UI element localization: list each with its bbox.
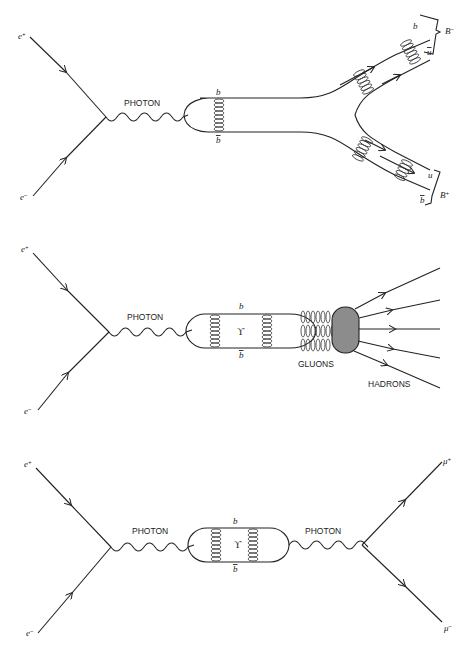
b-out-label: b xyxy=(413,21,418,31)
upsilon-label: ϒ xyxy=(234,539,242,550)
bbar-quark-label: b xyxy=(239,350,244,360)
b-minus-label: B− xyxy=(445,26,455,36)
ubar-out-label: u xyxy=(427,47,432,57)
photon-label: PHOTON xyxy=(127,312,163,322)
photon-label: PHOTON xyxy=(124,98,160,108)
diagram-upsilon-to-hadrons: e+ e− PHOTON b b ϒ GLUONS HADRONS xyxy=(21,244,440,416)
upsilon-bound-state xyxy=(186,314,316,348)
mu-minus-label: μ− xyxy=(443,623,453,633)
bbar-quark-label: b xyxy=(233,564,238,574)
e-minus-label: e− xyxy=(20,192,28,202)
upsilon-label: ϒ xyxy=(237,326,245,337)
b-quark-label: b xyxy=(239,301,244,311)
photon-wavy-line xyxy=(106,113,188,121)
b-quark-label: b xyxy=(216,87,221,97)
gluons-label: GLUONS xyxy=(298,359,334,369)
photon-label-right: PHOTON xyxy=(305,526,341,536)
hadron-lines xyxy=(354,268,440,388)
feynman-diagrams-figure: e+ e− PHOTON xyxy=(0,0,471,649)
photon-wavy-line xyxy=(109,328,192,336)
u-out-label: u xyxy=(428,170,433,180)
e-plus-label: e+ xyxy=(21,244,29,254)
photon-wavy-line-right xyxy=(289,541,368,549)
photon-label-left: PHOTON xyxy=(132,526,168,536)
diagram-upsilon-to-muons: e+ e− PHOTON b b ϒ PHOTON μ+ μ− xyxy=(24,456,453,638)
gluon-coils xyxy=(214,38,421,181)
diagram-b-meson-production: e+ e− PHOTON xyxy=(18,15,455,205)
hadrons-label: HADRONS xyxy=(368,379,411,389)
e-minus-label: e− xyxy=(24,406,32,416)
hadronization-blob xyxy=(332,307,359,353)
electron-positron-lines: e+ e− xyxy=(18,31,106,202)
gluon-coils xyxy=(210,311,335,351)
bbar-out-label: b xyxy=(420,195,425,205)
e-plus-label: e+ xyxy=(18,31,26,41)
b-quark-label: b xyxy=(233,516,238,526)
bbar-quark-label: b xyxy=(216,135,221,145)
b-plus-label: B+ xyxy=(440,190,450,200)
photon-wavy-line-left xyxy=(111,543,194,551)
e-plus-label: e+ xyxy=(24,459,32,469)
mu-plus-label: μ+ xyxy=(442,456,452,466)
e-minus-label: e− xyxy=(26,628,34,638)
